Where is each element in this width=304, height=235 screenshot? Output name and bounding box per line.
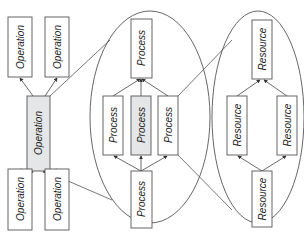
process-node-bottom[interactable]: Process [131,171,152,228]
operation-node-top-right[interactable]: Operation [45,17,69,77]
resource-node-left[interactable]: Resource [227,96,247,155]
operation-node-center[interactable]: Operation [27,96,50,171]
resource-node-right[interactable]: Resource [277,96,297,155]
operation-node-top-left[interactable]: Operation [8,17,32,77]
node-label: Operation [33,111,44,155]
node-label: Operation [52,177,63,221]
node-label: Process [136,107,147,143]
operation-node-bottom-left[interactable]: Operation [8,169,32,230]
node-label: Process [136,181,147,217]
node-label: Operation [15,25,26,69]
node-label: Operation [52,25,63,69]
node-label: Resource [232,103,243,146]
operation-node-bottom-right[interactable]: Operation [45,169,69,230]
node-label: Resource [257,27,268,70]
diagram-canvas: Operation Operation Operation Operation … [0,0,304,235]
process-node-right[interactable]: Process [158,96,178,155]
resource-node-bottom[interactable]: Resource [252,171,272,227]
resource-node-top[interactable]: Resource [252,20,272,79]
node-label: Process [163,107,174,143]
node-label: Resource [282,103,293,146]
node-label: Operation [15,177,26,221]
node-label: Process [108,107,119,143]
process-node-top[interactable]: Process [131,19,152,78]
process-node-middle[interactable]: Process [131,96,151,155]
node-label: Resource [257,177,268,220]
node-label: Process [136,30,147,66]
process-node-left[interactable]: Process [103,96,123,155]
